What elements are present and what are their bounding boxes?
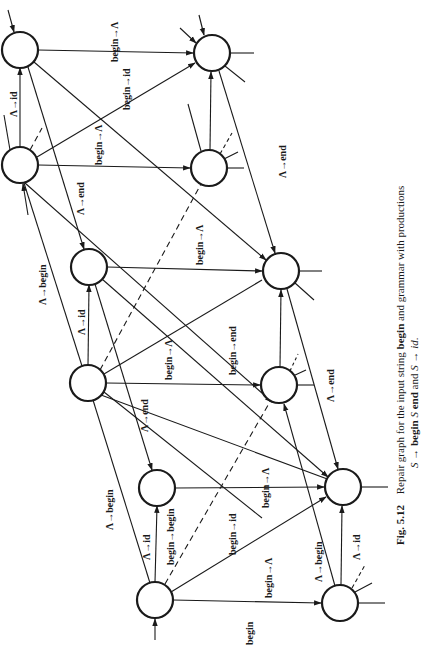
edge-label: Λ→end bbox=[139, 399, 150, 432]
state-node bbox=[194, 35, 230, 71]
edge-n4-n9 bbox=[104, 280, 262, 374]
edge-label: begin→id bbox=[227, 513, 238, 555]
edge-label: Λ→begin bbox=[313, 541, 324, 582]
state-node bbox=[263, 253, 299, 289]
edge-into-n7 bbox=[180, 28, 196, 43]
edge-label: Λ→end bbox=[325, 369, 336, 402]
edge-label: begin→id bbox=[121, 68, 132, 110]
edge-label: Λ→id bbox=[141, 534, 152, 560]
edge-n6-n12 bbox=[173, 600, 321, 603]
state-node bbox=[137, 582, 173, 618]
state-node bbox=[322, 585, 358, 621]
nodes bbox=[2, 32, 361, 621]
edge-n6-n11 bbox=[171, 497, 326, 592]
stub bbox=[295, 283, 314, 300]
repair-graph-diagram: begin→Λ begin→id Λ→id begin→Λ Λ→end Λ→en… bbox=[0, 0, 432, 650]
edge-label: begin→Λ bbox=[93, 124, 104, 165]
edge-n2-n7 bbox=[37, 63, 195, 157]
stub bbox=[225, 66, 245, 82]
state-node bbox=[325, 469, 361, 505]
dashed-edge bbox=[100, 184, 201, 370]
edge-label: Λ→id bbox=[8, 91, 19, 117]
edge-n2-n8 bbox=[38, 165, 190, 168]
edge-labels: begin→Λ begin→id Λ→id begin→Λ Λ→end Λ→en… bbox=[8, 21, 362, 645]
caption-line-2: S → begin S end and S → id. bbox=[408, 337, 420, 468]
edge-label: Λ→begin bbox=[104, 489, 115, 530]
state-node bbox=[139, 470, 175, 506]
edge-n1-n9 bbox=[34, 62, 266, 260]
state-node bbox=[71, 249, 107, 285]
edge-n12-n11 bbox=[341, 506, 342, 585]
state-node bbox=[2, 32, 38, 68]
stub bbox=[355, 583, 372, 592]
edge-n8-n7 bbox=[210, 72, 211, 150]
edge-label: Λ→begin bbox=[37, 264, 48, 305]
caption-line-1: Fig. 5.12 Repair graph for the input str… bbox=[394, 186, 406, 545]
edge-label: Λ→end bbox=[75, 182, 86, 215]
input-symbol-label: begin bbox=[244, 621, 255, 645]
stub bbox=[220, 133, 232, 154]
edge-label: begin→Λ bbox=[163, 339, 174, 380]
edge-label: begin→Λ bbox=[109, 21, 120, 62]
edge-n4-n10 bbox=[106, 383, 260, 385]
stub bbox=[4, 115, 10, 150]
edge-n4-diag bbox=[104, 392, 262, 518]
caption-figure-number: Fig. 5.12 bbox=[394, 504, 406, 545]
edge-n6-n5 bbox=[155, 506, 157, 582]
stub bbox=[290, 354, 298, 371]
edge-label: Λ→end bbox=[277, 145, 288, 178]
dashed-stub bbox=[30, 128, 42, 150]
state-node bbox=[191, 150, 227, 186]
figure-caption: Fig. 5.12 Repair graph for the input str… bbox=[394, 186, 420, 545]
state-node bbox=[2, 147, 38, 183]
edges bbox=[4, 10, 388, 640]
stub bbox=[224, 152, 238, 159]
edge-label: begin→Λ bbox=[194, 224, 205, 265]
edge-label: begin→Λ bbox=[260, 467, 271, 508]
edge-label: Λ→id bbox=[76, 309, 87, 335]
state-node bbox=[261, 367, 297, 403]
edge-label: begin→begin bbox=[165, 508, 176, 565]
edge-n7-n9 bbox=[219, 71, 275, 253]
entry-arrow bbox=[8, 10, 14, 32]
edge-label: begin→Λ bbox=[263, 557, 274, 598]
edge-n10-n9 bbox=[280, 290, 281, 367]
stub bbox=[188, 104, 201, 151]
edge-into-n7 bbox=[199, 15, 204, 35]
edge-n4-n11 bbox=[101, 395, 330, 480]
edge-label: begin→end bbox=[227, 326, 238, 375]
stub bbox=[352, 565, 365, 588]
dashed-edge bbox=[165, 400, 271, 584]
state-node bbox=[70, 365, 106, 401]
edge-n5-n11 bbox=[175, 487, 324, 488]
edge-n3-n9 bbox=[107, 267, 262, 271]
edge-n4-n3 bbox=[88, 285, 89, 365]
edge-label: Λ→id bbox=[351, 534, 362, 560]
